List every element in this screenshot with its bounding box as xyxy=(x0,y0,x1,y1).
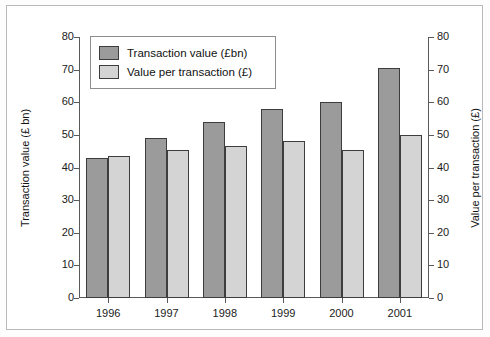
x-axis-label-1998: 1998 xyxy=(195,307,255,319)
x-tick-2000 xyxy=(342,298,343,303)
right-tick-50 xyxy=(429,135,434,136)
bar-2000-series2 xyxy=(342,150,364,298)
left-tick-label-0: 0 xyxy=(68,292,74,303)
legend-item-value-per-transaction: Value per transaction (£) xyxy=(99,62,267,81)
right-tick-10 xyxy=(429,265,434,266)
bar-1997-series2 xyxy=(167,150,189,298)
left-tick-70 xyxy=(74,70,79,71)
left-tick-label-10: 10 xyxy=(62,259,74,270)
right-tick-label-70: 70 xyxy=(437,64,449,75)
right-tick-70 xyxy=(429,70,434,71)
left-tick-label-50: 50 xyxy=(62,129,74,140)
right-tick-label-0: 0 xyxy=(437,292,443,303)
left-tick-label-20: 20 xyxy=(62,227,74,238)
bar-1998-series1 xyxy=(203,122,225,298)
x-tick-1997 xyxy=(167,298,168,303)
right-tick-label-20: 20 xyxy=(437,227,449,238)
chart-figure: Transaction value (£ bn) Value per trans… xyxy=(0,0,490,337)
left-tick-20 xyxy=(74,233,79,234)
right-tick-60 xyxy=(429,102,434,103)
bar-1999-series2 xyxy=(283,141,305,298)
right-tick-80 xyxy=(429,37,434,38)
x-tick-1996 xyxy=(108,298,109,303)
x-axis-line xyxy=(79,297,429,298)
bar-2000-series1 xyxy=(320,102,342,298)
bar-1999-series1 xyxy=(261,109,283,298)
x-axis-label-1996: 1996 xyxy=(78,307,138,319)
right-axis-title: Value per transaction (£) xyxy=(469,108,481,228)
right-tick-30 xyxy=(429,200,434,201)
left-tick-40 xyxy=(74,168,79,169)
bar-2001-series2 xyxy=(400,135,422,298)
x-axis-label-2001: 2001 xyxy=(370,307,430,319)
right-tick-label-40: 40 xyxy=(437,162,449,173)
right-tick-label-80: 80 xyxy=(437,31,449,42)
chart-legend: Transaction value (£bn) Value per transa… xyxy=(90,36,276,89)
left-tick-0 xyxy=(74,298,79,299)
left-tick-60 xyxy=(74,102,79,103)
left-tick-label-70: 70 xyxy=(62,64,74,75)
left-tick-label-80: 80 xyxy=(62,31,74,42)
left-tick-10 xyxy=(74,265,79,266)
legend-label-value-per-transaction: Value per transaction (£) xyxy=(127,66,252,78)
right-tick-20 xyxy=(429,233,434,234)
bar-1996-series1 xyxy=(86,158,108,298)
right-tick-label-50: 50 xyxy=(437,129,449,140)
left-axis-line xyxy=(79,37,80,298)
right-tick-label-60: 60 xyxy=(437,96,449,107)
bar-1997-series1 xyxy=(145,138,167,298)
left-tick-50 xyxy=(74,135,79,136)
x-axis-label-1997: 1997 xyxy=(137,307,197,319)
legend-swatch-value-per-transaction xyxy=(99,65,119,79)
left-tick-label-60: 60 xyxy=(62,96,74,107)
legend-label-transaction-value: Transaction value (£bn) xyxy=(127,47,247,59)
left-tick-label-30: 30 xyxy=(62,194,74,205)
legend-swatch-transaction-value xyxy=(99,46,119,60)
left-tick-80 xyxy=(74,37,79,38)
left-tick-label-40: 40 xyxy=(62,162,74,173)
bar-1996-series2 xyxy=(108,156,130,298)
x-axis-label-1999: 1999 xyxy=(253,307,313,319)
left-axis-title: Transaction value (£ bn) xyxy=(19,108,31,226)
right-tick-label-10: 10 xyxy=(437,259,449,270)
left-tick-30 xyxy=(74,200,79,201)
x-axis-label-2000: 2000 xyxy=(312,307,372,319)
bar-2001-series1 xyxy=(378,68,400,298)
legend-item-transaction-value: Transaction value (£bn) xyxy=(99,43,267,62)
figure-frame: Transaction value (£ bn) Value per trans… xyxy=(6,5,483,330)
right-tick-label-30: 30 xyxy=(437,194,449,205)
x-tick-1999 xyxy=(283,298,284,303)
x-tick-2001 xyxy=(400,298,401,303)
bar-1998-series2 xyxy=(225,146,247,298)
right-tick-40 xyxy=(429,168,434,169)
right-tick-0 xyxy=(429,298,434,299)
x-tick-1998 xyxy=(225,298,226,303)
